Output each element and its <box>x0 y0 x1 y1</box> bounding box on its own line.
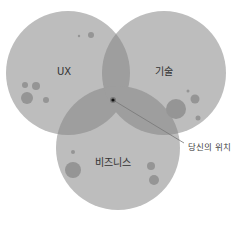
label-business: 비즈니스 <box>95 157 131 168</box>
venn-diagram: UX 기술 비즈니스 당신의 위치 <box>0 0 240 225</box>
label-ux: UX <box>57 66 71 77</box>
label-tech: 기술 <box>155 66 173 77</box>
label-your-position: 당신의 위치 <box>188 142 231 152</box>
